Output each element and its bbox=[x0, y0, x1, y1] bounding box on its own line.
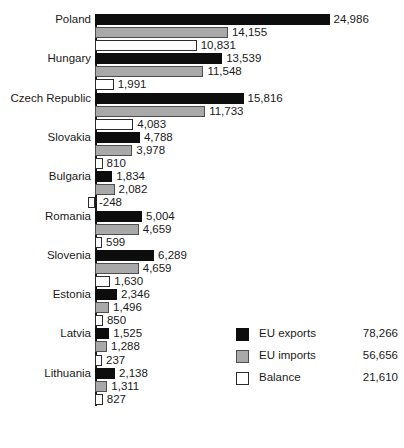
bar-row: 2,082 bbox=[0, 184, 404, 195]
legend-item: Balance21,610 bbox=[236, 369, 400, 391]
bar-row: 11,548 bbox=[0, 66, 404, 77]
chart-legend: EU exports78,266EU imports56,656Balance2… bbox=[236, 325, 400, 391]
bar-row: -248 bbox=[0, 197, 404, 208]
bar-row: 6,289 bbox=[0, 250, 404, 261]
legend-label: EU exports bbox=[259, 326, 316, 341]
bar-value-label: 1,991 bbox=[118, 78, 147, 91]
bar-exports bbox=[95, 53, 222, 64]
legend-label: EU imports bbox=[259, 348, 316, 363]
bar-row: 1,496 bbox=[0, 302, 404, 313]
bar-exports bbox=[95, 368, 115, 379]
bar-balance bbox=[95, 394, 103, 405]
bar-value-label: 15,816 bbox=[248, 92, 283, 105]
bar-exports bbox=[95, 93, 244, 104]
bar-balance bbox=[95, 79, 114, 90]
bar-value-label: 1,525 bbox=[113, 327, 142, 340]
bar-value-label: 2,082 bbox=[119, 183, 148, 196]
legend-total-value: 56,656 bbox=[336, 348, 398, 363]
bar-exports bbox=[95, 171, 112, 182]
bar-value-label: 11,733 bbox=[209, 105, 243, 118]
bar-row: 11,733 bbox=[0, 106, 404, 117]
bar-value-label: 10,831 bbox=[201, 39, 236, 52]
bar-value-label: -248 bbox=[99, 196, 122, 209]
bar-row: 1,834 bbox=[0, 171, 404, 182]
bar-balance bbox=[88, 197, 95, 208]
bar-balance bbox=[95, 355, 102, 366]
bar-exports bbox=[95, 328, 109, 339]
bar-row: 13,539 bbox=[0, 53, 404, 64]
bar-exports bbox=[95, 132, 140, 143]
bar-row: 15,816 bbox=[0, 93, 404, 104]
bar-row: 14,155 bbox=[0, 27, 404, 38]
bar-value-label: 4,659 bbox=[143, 223, 172, 236]
bar-imports bbox=[95, 263, 139, 274]
bar-row: 4,659 bbox=[0, 263, 404, 274]
bar-value-label: 599 bbox=[106, 236, 125, 249]
bar-group: Estonia2,3461,496850 bbox=[0, 289, 404, 328]
bar-balance bbox=[95, 237, 102, 248]
legend-item: EU exports78,266 bbox=[236, 325, 400, 347]
bar-exports bbox=[95, 211, 142, 222]
bar-imports bbox=[95, 145, 132, 156]
bar-imports bbox=[95, 224, 139, 235]
bar-row: 4,659 bbox=[0, 224, 404, 235]
bar-row: 810 bbox=[0, 158, 404, 169]
bar-group: Slovakia4,7883,978810 bbox=[0, 132, 404, 171]
bar-group: Romania5,0044,659599 bbox=[0, 211, 404, 250]
bar-exports bbox=[95, 250, 154, 261]
bar-row: 4,083 bbox=[0, 119, 404, 130]
legend-swatch-balance bbox=[236, 372, 249, 385]
bar-imports bbox=[95, 27, 228, 38]
bar-value-label: 1,834 bbox=[116, 170, 145, 183]
bar-imports bbox=[95, 302, 109, 313]
bar-row: 10,831 bbox=[0, 40, 404, 51]
legend-swatch-imports bbox=[236, 350, 249, 363]
bar-balance bbox=[95, 315, 103, 326]
legend-total-value: 21,610 bbox=[336, 370, 398, 385]
bar-group: Bulgaria1,8342,082-248 bbox=[0, 171, 404, 210]
bar-value-label: 827 bbox=[107, 393, 126, 406]
bar-imports bbox=[95, 66, 203, 77]
bar-value-label: 2,346 bbox=[121, 288, 150, 301]
bar-value-label: 11,548 bbox=[207, 65, 241, 78]
bar-group: Hungary13,53911,5481,991 bbox=[0, 53, 404, 92]
bar-value-label: 237 bbox=[106, 354, 125, 367]
bar-balance bbox=[95, 276, 110, 287]
bar-group: Slovenia6,2894,6591,630 bbox=[0, 250, 404, 289]
bar-value-label: 1,496 bbox=[113, 301, 142, 314]
bar-imports bbox=[95, 341, 107, 352]
bar-group: Poland24,98614,15510,831 bbox=[0, 14, 404, 53]
bar-value-label: 850 bbox=[107, 314, 126, 327]
bar-value-label: 4,083 bbox=[137, 118, 166, 131]
bar-row: 1,991 bbox=[0, 79, 404, 90]
bar-imports bbox=[95, 184, 115, 195]
bar-row: 24,986 bbox=[0, 14, 404, 25]
bar-value-label: 4,659 bbox=[143, 262, 172, 275]
grouped-bar-chart: Poland24,98614,15510,831Hungary13,53911,… bbox=[0, 0, 404, 448]
bar-value-label: 4,788 bbox=[144, 131, 173, 144]
legend-total-value: 78,266 bbox=[336, 326, 398, 341]
bar-value-label: 14,155 bbox=[232, 26, 267, 39]
bar-row: 2,346 bbox=[0, 289, 404, 300]
legend-item: EU imports56,656 bbox=[236, 347, 400, 369]
bar-row: 827 bbox=[0, 394, 404, 405]
bar-balance bbox=[95, 40, 197, 51]
bar-row: 4,788 bbox=[0, 132, 404, 143]
bar-row: 5,004 bbox=[0, 211, 404, 222]
bar-value-label: 1,630 bbox=[114, 275, 143, 288]
bar-value-label: 1,311 bbox=[111, 380, 139, 393]
bar-value-label: 3,978 bbox=[136, 144, 165, 157]
bar-value-label: 1,288 bbox=[111, 340, 140, 353]
bar-exports bbox=[95, 289, 117, 300]
bar-value-label: 24,986 bbox=[334, 13, 369, 26]
bar-balance bbox=[95, 158, 103, 169]
bar-value-label: 2,138 bbox=[119, 367, 148, 380]
bar-value-label: 5,004 bbox=[146, 210, 175, 223]
legend-swatch-exports bbox=[236, 328, 249, 341]
bar-row: 599 bbox=[0, 237, 404, 248]
bar-balance bbox=[95, 119, 133, 130]
bar-group: Czech Republic15,81611,7334,083 bbox=[0, 93, 404, 132]
bar-imports bbox=[95, 106, 205, 117]
legend-label: Balance bbox=[259, 370, 301, 385]
bar-value-label: 6,289 bbox=[158, 249, 187, 262]
